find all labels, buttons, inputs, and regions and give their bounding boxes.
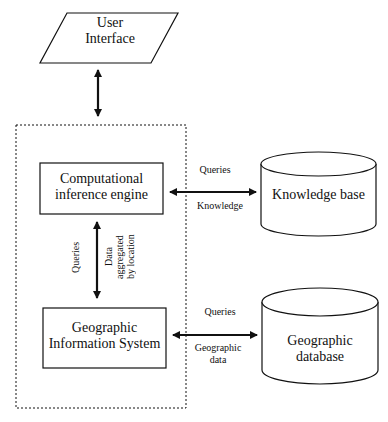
engine-gis-queries-label: Queries (70, 232, 81, 282)
gis-label: Geographic Information System (43, 320, 166, 352)
geo-db-line-2: database (262, 349, 378, 365)
gis-line-2: Information System (43, 336, 166, 352)
inference-engine-line-2: inference engine (40, 187, 163, 203)
user-interface-line-2: Interface (58, 31, 162, 47)
user-interface-label: User Interface (58, 15, 162, 47)
engine-kb-queries-label: Queries (190, 164, 240, 176)
data-line-2: aggregated (114, 226, 125, 288)
inference-engine-line-1: Computational (40, 171, 163, 187)
geographic-database-label: Geographic database (262, 333, 378, 365)
engine-kb-knowledge-label: Knowledge (190, 200, 250, 212)
engine-gis-data-label: Data aggregated by location (103, 226, 136, 288)
gis-line-1: Geographic (43, 320, 166, 336)
user-interface-line-1: User (58, 15, 162, 31)
gis-db-queries-label: Queries (195, 306, 245, 318)
knowledge-base-label: Knowledge base (261, 187, 376, 203)
geo-db-line-1: Geographic (262, 333, 378, 349)
data-line-3: by location (125, 226, 136, 288)
data-line-1: Data (103, 226, 114, 288)
gis-db-geographic-data-label: Geographic data (188, 342, 248, 365)
inference-engine-label: Computational inference engine (40, 171, 163, 203)
geo-data-line-1: Geographic (188, 342, 248, 354)
geo-data-line-2: data (188, 354, 248, 366)
